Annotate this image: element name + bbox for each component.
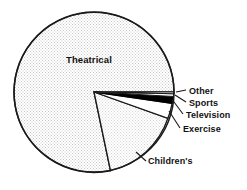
pie-label-childrens: Children's — [148, 156, 193, 166]
pie-label-television: Television — [186, 110, 230, 120]
leader-line-other — [176, 90, 186, 92]
leader-line-exercise — [169, 111, 180, 128]
leader-line-television — [173, 100, 184, 114]
pie-label-exercise: Exercise — [183, 124, 221, 134]
pie-label-sports: Sports — [189, 98, 218, 108]
leader-line-sports — [175, 95, 186, 102]
pie-label-other: Other — [189, 86, 214, 96]
pie-chart-figure: Theatrical Other Sports Television Exerc… — [0, 0, 247, 190]
pie-label-theatrical: Theatrical — [66, 55, 112, 65]
